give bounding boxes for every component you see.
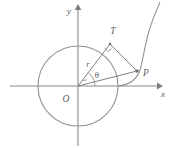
y-axis-arrowhead bbox=[75, 4, 82, 10]
radius-label: r bbox=[86, 59, 90, 69]
right-angle-marker bbox=[105, 48, 112, 52]
origin-label: O bbox=[63, 94, 70, 104]
tangent-point-dot bbox=[109, 43, 112, 46]
figure-canvas: x y O T P r θ bbox=[0, 0, 170, 148]
tangent-point-label: T bbox=[110, 26, 116, 36]
tangent-segment-TP bbox=[110, 44, 137, 71]
curve-point-label: P bbox=[142, 68, 149, 78]
involute-curve bbox=[118, 2, 160, 86]
angle-label: θ bbox=[95, 70, 99, 80]
radius-tick-mark bbox=[83, 80, 87, 81]
involute-circle-figure: x y O T P r θ bbox=[0, 0, 170, 148]
curve-point-dot bbox=[135, 69, 138, 72]
y-axis bbox=[75, 4, 82, 146]
y-axis-label: y bbox=[66, 6, 71, 16]
x-axis-label: x bbox=[160, 89, 165, 99]
